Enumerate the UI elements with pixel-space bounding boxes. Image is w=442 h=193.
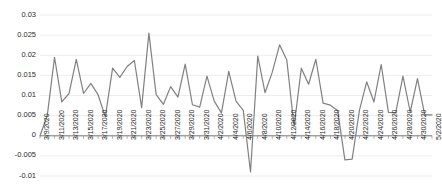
x-axis-tick-label: 4/4/2020: [232, 113, 239, 139]
x-axis-tick-label: 4/28/2020: [406, 110, 413, 140]
x-axis-tick-label: 3/19/2020: [116, 110, 123, 140]
x-axis-tick-label: 3/31/2020: [203, 110, 210, 140]
x-axis-tick-label: 3/11/2020: [58, 110, 65, 140]
x-axis-tick-label: 5/2/2020: [435, 113, 442, 139]
x-axis-tick-label: 3/15/2020: [87, 110, 94, 140]
x-axis-tick-label: 3/21/2020: [130, 110, 137, 140]
x-axis-tick-label: 4/14/2020: [304, 110, 311, 140]
x-axis-tick-label: 3/17/2020: [101, 110, 108, 140]
x-axis-tick-label: 4/18/2020: [333, 110, 340, 140]
x-axis-tick-label: 4/20/2020: [348, 110, 355, 140]
x-axis-tick-label: 4/26/2020: [391, 110, 398, 140]
x-axis-tick-label: 4/22/2020: [362, 110, 369, 140]
x-axis-tick-label: 4/30/2020: [420, 110, 427, 140]
x-axis-tick-label: 4/8/2020: [261, 113, 268, 139]
x-axis-tick-label: 4/6/2020: [246, 113, 253, 139]
x-axis-tick-label: 3/29/2020: [188, 110, 195, 140]
x-axis-tick-label: 3/27/2020: [174, 110, 181, 140]
x-axis-tick-label: 4/12/2020: [290, 110, 297, 140]
x-axis-tick-label: 4/2/2020: [217, 113, 224, 139]
x-axis-tick-label: 4/16/2020: [319, 110, 326, 140]
x-axis-tick-label: 3/9/2020: [43, 113, 50, 139]
x-axis-tick-label: 3/13/2020: [72, 110, 79, 140]
x-axis-tick-label: 4/24/2020: [377, 110, 384, 140]
x-axis-tick-label: 4/10/2020: [275, 110, 282, 140]
x-axis-tick-label: 3/25/2020: [159, 110, 166, 140]
x-axis-tick-label: 3/23/2020: [145, 110, 152, 140]
